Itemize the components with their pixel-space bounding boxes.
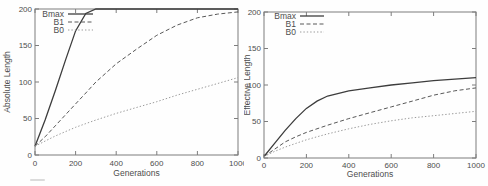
plot-svg: 02004006008001000050100150200Generations…: [0, 0, 244, 186]
chart-absolute-length: 02004006008001000050100150200Generations…: [0, 0, 244, 186]
series-bmax-line: [35, 9, 238, 146]
y-tick-label: 0: [257, 154, 262, 163]
y-axis-title: Absolute Length: [2, 51, 12, 113]
x-tick-label: 1000: [229, 159, 244, 168]
y-tick-label: 50: [23, 114, 32, 123]
x-tick-label: 1000: [467, 161, 485, 170]
caption-fragment: [30, 179, 45, 181]
x-tick-label: 400: [110, 159, 124, 168]
x-tick-label: 200: [69, 159, 83, 168]
y-tick-label: 150: [19, 41, 33, 50]
plot-frame: [35, 9, 238, 155]
plot-svg: 02004006008001000050100150200Generations…: [244, 0, 488, 186]
x-tick-label: 600: [150, 159, 164, 168]
y-tick-label: 200: [19, 5, 33, 14]
y-tick-label: 200: [248, 8, 262, 17]
legend-label-b0: B0: [286, 27, 297, 37]
x-axis-title: Generations: [347, 169, 393, 179]
legend: BmaxB1B0: [274, 11, 324, 37]
series-b1-line: [35, 12, 238, 146]
y-tick-label: 0: [28, 151, 33, 160]
x-tick-label: 800: [427, 161, 441, 170]
series-bmax-line: [264, 78, 476, 157]
x-axis-title: Generations: [113, 168, 159, 178]
y-tick-label: 100: [19, 78, 33, 87]
x-tick-label: 0: [33, 159, 38, 168]
x-tick-label: 0: [262, 161, 267, 170]
y-axis-title: Effective Length: [244, 54, 252, 115]
legend-label-b0: B0: [54, 25, 65, 35]
x-tick-label: 800: [191, 159, 205, 168]
figure-canvas: 02004006008001000050100150200Generations…: [0, 0, 488, 186]
legend: BmaxB1B0: [42, 9, 93, 35]
y-tick-label: 150: [248, 44, 262, 53]
x-tick-label: 200: [300, 161, 314, 170]
chart-effective-length: 02004006008001000050100150200Generations…: [244, 0, 488, 186]
y-tick-label: 50: [252, 117, 261, 126]
series-b0-line: [35, 78, 238, 147]
series-b1-line: [264, 88, 476, 157]
